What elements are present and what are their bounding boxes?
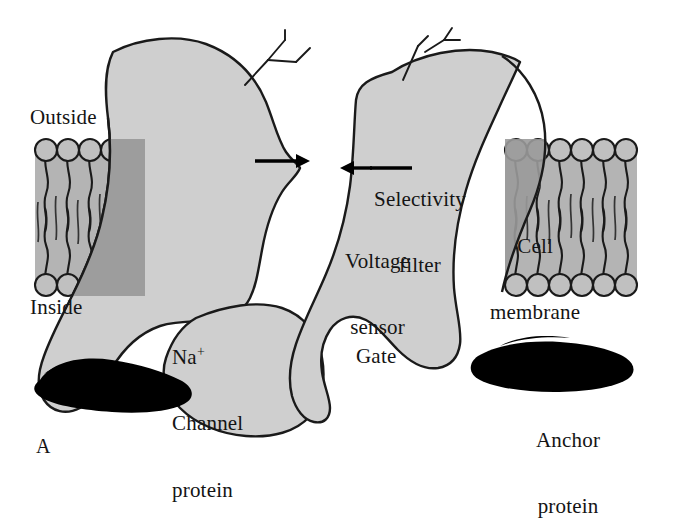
- label-cell-membrane: Cell membrane: [490, 190, 580, 346]
- label-inside: Inside: [30, 296, 83, 318]
- na-charge: +: [197, 344, 205, 359]
- label-na-channel-protein: Na+ Channel protein: [172, 300, 243, 522]
- label-outside: Outside: [30, 106, 97, 128]
- panel-label: A: [36, 436, 51, 457]
- label-voltage-sensor: Voltage sensor: [345, 205, 410, 361]
- label-anchor-protein: Anchor protein: [536, 384, 600, 522]
- na-symbol: Na: [172, 345, 197, 369]
- label-gate: Gate: [356, 345, 396, 367]
- na-channel-line3: protein: [172, 479, 243, 501]
- na-channel-line2: Channel: [172, 412, 243, 434]
- voltage-line2: sensor: [345, 316, 410, 338]
- voltage-line1: Voltage: [345, 250, 410, 272]
- anchor-line2: protein: [536, 495, 600, 517]
- cell-membrane-line1: Cell: [490, 235, 580, 257]
- cell-membrane-line2: membrane: [490, 301, 580, 323]
- anchor-line1: Anchor: [536, 429, 600, 451]
